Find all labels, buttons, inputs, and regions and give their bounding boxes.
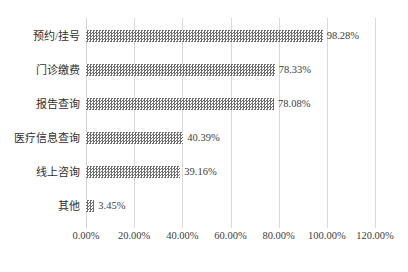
gridline-20.00% — [134, 18, 135, 228]
bar-row: 门诊缴费78.33% — [86, 64, 375, 76]
gridline-120.00% — [375, 18, 376, 228]
bar-value-label: 40.39% — [187, 133, 219, 144]
bar-row: 医疗信息查询40.39% — [86, 132, 375, 144]
bar-row: 报告查询78.08% — [86, 98, 375, 110]
x-axis-tick-label: 100.00% — [308, 231, 346, 242]
x-axis-tick-label: 20.00% — [118, 231, 150, 242]
bar-chart: 预约/挂号98.28%门诊缴费78.33%报告查询78.08%医疗信息查询40.… — [0, 0, 408, 272]
bar-value-label: 39.16% — [184, 167, 216, 178]
plot-area: 预约/挂号98.28%门诊缴费78.33%报告查询78.08%医疗信息查询40.… — [86, 18, 375, 228]
gridline-0.00% — [86, 18, 87, 228]
bar — [86, 200, 94, 212]
x-axis-tick-label: 80.00% — [262, 231, 294, 242]
category-label: 医疗信息查询 — [14, 133, 80, 144]
bar-row: 其他3.45% — [86, 200, 375, 212]
bar-value-label: 78.33% — [279, 65, 311, 76]
x-axis-tick-label: 40.00% — [166, 231, 198, 242]
gridline-80.00% — [279, 18, 280, 228]
bar-value-label: 78.08% — [278, 99, 310, 110]
x-axis-tick-label: 120.00% — [356, 231, 394, 242]
gridline-40.00% — [182, 18, 183, 228]
bar-value-label: 3.45% — [98, 201, 125, 212]
x-axis-tick-label: 0.00% — [72, 231, 99, 242]
bar — [86, 64, 275, 76]
bar-row: 预约/挂号98.28% — [86, 30, 375, 42]
category-label: 预约/挂号 — [33, 31, 80, 42]
bar — [86, 30, 323, 42]
gridline-60.00% — [231, 18, 232, 228]
category-label: 线上咨询 — [36, 167, 80, 178]
category-label: 其他 — [58, 201, 80, 212]
bar-row: 线上咨询39.16% — [86, 166, 375, 178]
bar-value-label: 98.28% — [327, 31, 359, 42]
category-label: 报告查询 — [36, 99, 80, 110]
category-label: 门诊缴费 — [36, 65, 80, 76]
bar — [86, 132, 183, 144]
x-axis-tick-label: 60.00% — [214, 231, 246, 242]
bar — [86, 166, 180, 178]
bar — [86, 98, 274, 110]
bottom-caption — [0, 263, 408, 272]
gridline-100.00% — [327, 18, 328, 228]
